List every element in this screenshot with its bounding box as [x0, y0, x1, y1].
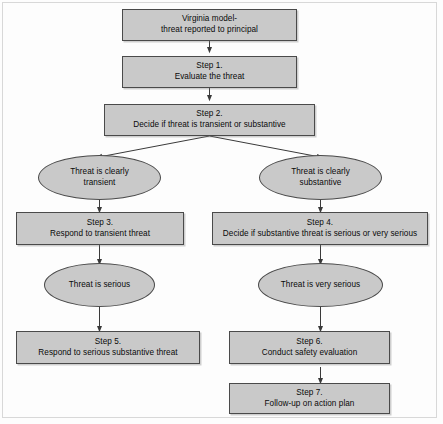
node-step4: Step 4. Decide if substantive threat is …: [212, 212, 428, 245]
node-threat-is-very-serious: Threat is very serious: [258, 263, 383, 307]
node-start: Virginia model- threat reported to princ…: [122, 9, 297, 41]
node-threat-is-very-serious-label: Threat is very serious: [278, 280, 363, 291]
node-step5-label: Step 5. Respond to serious substantive t…: [35, 337, 180, 358]
node-step3-label: Step 3. Respond to transient threat: [47, 218, 153, 239]
node-threat-clearly-transient: Threat is clearly transient: [38, 155, 161, 200]
node-step1-label: Step 1. Evaluate the threat: [172, 61, 248, 82]
node-step2: Step 2. Decide if threat is transient or…: [104, 104, 315, 136]
node-step7-label: Step 7. Follow-up on action plan: [262, 388, 358, 409]
node-step3: Step 3. Respond to transient threat: [16, 212, 184, 245]
node-step5: Step 5. Respond to serious substantive t…: [16, 331, 200, 364]
node-threat-clearly-substantive: Threat is clearly substantive: [259, 155, 382, 200]
node-threat-is-serious-label: Threat is serious: [66, 280, 133, 291]
node-threat-clearly-substantive-label: Threat is clearly substantive: [288, 167, 353, 188]
node-step7: Step 7. Follow-up on action plan: [229, 383, 390, 414]
node-threat-clearly-transient-label: Threat is clearly transient: [67, 167, 132, 188]
node-step4-label: Step 4. Decide if substantive threat is …: [220, 218, 420, 239]
node-step1: Step 1. Evaluate the threat: [122, 56, 297, 88]
edge-step2-to-substantive: [210, 136, 321, 157]
node-step6: Step 6. Conduct safety evaluation: [229, 331, 390, 364]
flowchart-page: Virginia model- threat reported to princ…: [0, 0, 443, 424]
node-step2-label: Step 2. Decide if threat is transient or…: [130, 109, 288, 130]
node-step6-label: Step 6. Conduct safety evaluation: [259, 337, 360, 358]
node-threat-is-serious: Threat is serious: [44, 263, 155, 307]
edge-step2-to-transient: [99, 136, 210, 157]
node-start-label: Virginia model- threat reported to princ…: [158, 14, 261, 35]
